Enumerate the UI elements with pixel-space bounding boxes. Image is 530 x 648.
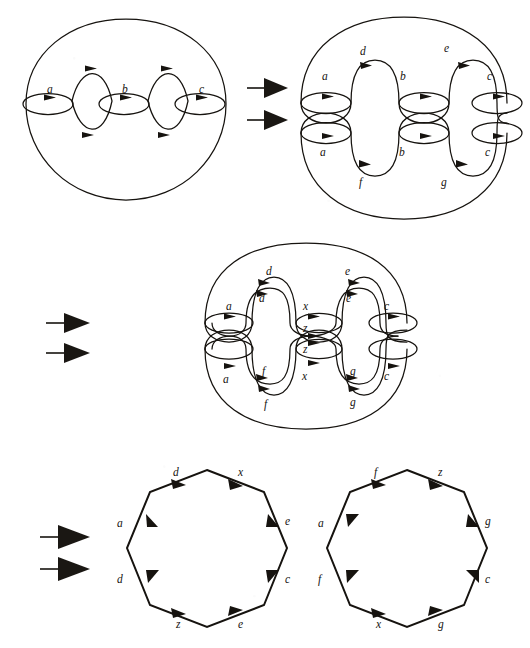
upper-loop-b-arrowhead — [420, 94, 432, 100]
mid-label-d-outer: d — [266, 265, 272, 277]
lower-loop-b-ellipse — [399, 123, 449, 144]
octagon-left-label-x: x — [237, 466, 244, 478]
octagon-left-label-c: c — [285, 573, 290, 585]
panel-bottom-left: d x e c e z d a — [117, 466, 290, 630]
loop-b-arrowhead — [120, 95, 132, 101]
label-lower-c: c — [485, 146, 490, 158]
octagon-right-edge-g-right-arrowhead — [466, 514, 479, 527]
mid-label-c-upper: c — [384, 300, 389, 312]
outer-surface-outline — [26, 19, 226, 200]
mid-upper-a-arrowhead — [224, 314, 236, 320]
panel-bottom-right-labels: f z g c g x f a — [318, 466, 491, 631]
octagon-left-label-e-bottom: e — [238, 618, 243, 630]
label-lower-b: b — [399, 146, 405, 158]
loop-c-arrowhead — [196, 95, 208, 101]
lower-hump-f-arrowhead — [359, 160, 371, 168]
panel-middle: a d d x z e e c a z f f x g g c — [205, 243, 417, 429]
mid-label-e-outer: e — [345, 265, 350, 277]
octagon-left-edge-c-arrowhead — [266, 570, 279, 583]
mid-label-a-lower: a — [223, 373, 229, 385]
lower-loop-c-arrowhead — [493, 133, 505, 139]
mid-label-e-inner: e — [346, 292, 351, 304]
implication-arrow-middle-head-1 — [64, 313, 90, 333]
handle-lens-1 — [72, 74, 112, 130]
mid-label-a-upper: a — [226, 300, 232, 312]
octagon-left-edge-e-right-arrowhead — [266, 514, 279, 527]
octagon-right-label-f-bottom: f — [318, 573, 323, 586]
implication-arrow-middle-head-2 — [64, 343, 90, 363]
octagon-right-label-c: c — [485, 573, 490, 585]
implication-arrow-bottom-head-2 — [58, 557, 90, 581]
octagon-right-label-x: x — [375, 618, 382, 630]
octagon-left-edge-d-bottom-arrowhead — [146, 570, 159, 583]
panel-top-left: a b c — [23, 19, 226, 200]
upper-loop-a-arrowhead — [322, 94, 334, 100]
label-a: a — [47, 83, 53, 95]
mid-label-d-inner: d — [259, 292, 265, 304]
octagon-left-label-a: a — [117, 517, 123, 529]
panel-bottom-right: f z g c g x f a — [318, 466, 491, 631]
label-c: c — [199, 83, 204, 95]
mid-upper-x-arrowhead — [308, 314, 320, 320]
octagon-right-edge-f-bottom-arrowhead — [346, 570, 359, 583]
handle-1-bottom-arrowhead — [82, 132, 94, 138]
label-upper-a: a — [322, 70, 328, 82]
handle-1-top-arrowhead — [85, 66, 97, 72]
loop-a-arrowhead — [44, 95, 56, 101]
panel-top-left-labels: a b c — [47, 83, 204, 95]
octagon-left-label-d-bottom: d — [117, 573, 123, 585]
upper-hump-d-arrowhead — [360, 62, 372, 69]
octagon-right-label-g-bottom: g — [438, 618, 444, 631]
implication-arrow-top-head-2 — [264, 110, 288, 130]
octagon-right-label-g-right: g — [485, 515, 491, 528]
octagon-right-edge-c-arrowhead — [466, 570, 479, 583]
implication-arrow-bottom-head-1 — [58, 525, 90, 549]
mid-lower-x-arrowhead — [308, 360, 320, 366]
implication-arrow-top-head-1 — [264, 78, 288, 98]
mid-label-f-inner: f — [262, 365, 267, 378]
lower-loop-a-arrowhead — [322, 133, 334, 139]
panel-top-right: a d b e c a f b g c — [301, 17, 522, 219]
octagon-right-outline — [327, 470, 487, 627]
mid-label-g-outer: g — [350, 396, 356, 409]
label-lower-f: f — [359, 176, 364, 189]
octagon-left-outline — [127, 470, 287, 627]
label-upper-e: e — [444, 42, 449, 54]
mid-label-x-upper: x — [302, 300, 309, 312]
mid-label-x-lower: x — [301, 370, 308, 382]
label-upper-b: b — [400, 70, 406, 82]
mid-label-z-upper: z — [302, 322, 308, 334]
figure-root: a b c — [0, 0, 530, 648]
lower-loop-a-ellipse — [301, 123, 351, 144]
octagon-right-label-z: z — [437, 466, 443, 478]
figure-canvas: a b c — [0, 0, 530, 648]
mid-lower-loop-c-ellipse — [369, 339, 417, 359]
mid-label-c-lower: c — [384, 370, 389, 382]
octagon-left-label-e-right: e — [285, 515, 290, 527]
mid-label-g-inner: g — [350, 365, 356, 378]
octagon-right-edge-a-arrowhead — [346, 514, 359, 527]
octagon-left-label-d-top: d — [173, 466, 179, 478]
mid-lower-z-arrowhead — [308, 340, 320, 346]
octagon-right-label-f-top: f — [374, 466, 379, 479]
mid-lower-a-arrowhead — [224, 363, 236, 369]
octagon-left-label-z: z — [175, 618, 181, 630]
implication-arrow-bottom — [40, 525, 90, 581]
handle-2-top-arrowhead — [161, 66, 173, 72]
upper-hump-e-arrowhead — [458, 62, 470, 69]
label-upper-c: c — [487, 70, 492, 82]
handle-lens-2 — [148, 74, 188, 130]
handle-2-bottom-arrowhead — [158, 132, 170, 138]
implication-arrow-middle — [46, 313, 90, 363]
octagon-right-label-a: a — [318, 517, 324, 529]
upper-loop-c-arrowhead — [493, 94, 505, 100]
lower-hump-g-arrowhead — [456, 160, 468, 168]
implication-arrow-top — [247, 78, 288, 130]
label-upper-d: d — [360, 45, 366, 57]
mid-label-f-outer: f — [264, 398, 269, 411]
label-b: b — [122, 83, 128, 95]
label-lower-g: g — [441, 176, 447, 189]
mid-label-z-lower: z — [302, 343, 308, 355]
mid-lower-c-arrowhead — [388, 363, 400, 369]
mid-upper-c-arrowhead — [388, 314, 400, 320]
